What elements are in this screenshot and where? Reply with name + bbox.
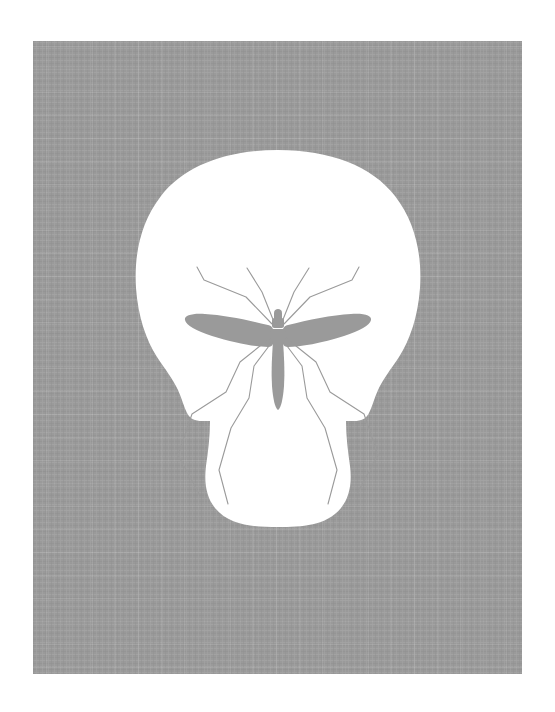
artwork-root: A white human skull shape rendered as ne… [0,0,555,712]
crane-fly-thorax-upper [272,318,284,328]
crane-fly-head [274,309,282,318]
artwork-canvas [0,0,555,712]
crane-fly-thorax-lower [270,329,286,341]
